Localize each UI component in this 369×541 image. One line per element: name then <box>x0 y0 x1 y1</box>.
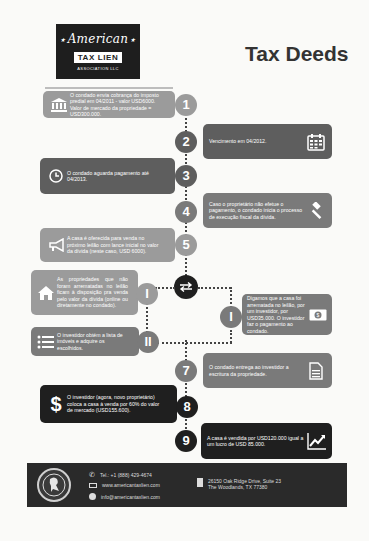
branch-merge-line <box>157 342 232 344</box>
email-row: info@americantaxlien.com <box>89 493 160 500</box>
address-row: 26150 Oak Ridge Drive, Suite 23 The Wood… <box>197 478 281 490</box>
website-link[interactable]: www.americantaxlien.com <box>102 482 160 488</box>
step-9-card: A casa é vendida por USD120.000 igual a … <box>201 423 332 459</box>
dollar-icon: $ <box>45 393 67 415</box>
step-7-text: O condado entrega ao investidor a escrit… <box>209 364 305 377</box>
swap-arrows-icon <box>174 275 198 299</box>
step-1-badge: 1 <box>175 94 197 116</box>
infographic-page: ★American★ TAX LIEN ASSOCIATION LLC Tax … <box>0 0 369 541</box>
document-icon <box>305 360 327 382</box>
eagle-seal-icon <box>37 468 71 502</box>
branch-right-1-badge: I <box>220 306 242 328</box>
step-5-badge: 5 <box>175 234 197 256</box>
branch-line-left <box>155 287 175 289</box>
building-icon <box>197 478 203 487</box>
list-icon <box>35 331 57 353</box>
laptop-icon <box>89 483 97 488</box>
branch-right-1-text: Digamos que a casa foi arrematada no lei… <box>247 295 308 334</box>
step-4-text: Caso o proprietário não efetue o pagamen… <box>209 201 305 221</box>
logo-line3: ASSOCIATION LLC <box>56 66 140 71</box>
logo-divider <box>45 87 173 89</box>
logo-line2: TAX LIEN <box>74 52 123 63</box>
american-tax-lien-logo: ★American★ TAX LIEN ASSOCIATION LLC <box>56 24 140 79</box>
step-1-card: O condado envia cobrança do imposto pred… <box>43 91 175 118</box>
megaphone-icon <box>45 234 67 256</box>
step-7-card: O condado entrega ao investidor a escrit… <box>203 353 332 388</box>
phone-text[interactable]: Tel.: +1 (888) 429-4674 <box>100 472 152 478</box>
step-2-text: Vencimento em 04/2012. <box>209 138 305 145</box>
bank-icon <box>48 94 70 116</box>
branch-left-2-badge: II <box>137 331 159 353</box>
branch-line-right <box>198 287 231 289</box>
logo-line1: American <box>68 32 129 46</box>
step-7-badge: 7 <box>175 360 197 382</box>
step-3-badge: 3 <box>175 165 197 187</box>
branch-left-2-card: O investidor obtém a lista de imóveis e … <box>31 327 139 356</box>
step-8-badge: 8 <box>176 396 198 418</box>
clock-icon <box>45 165 67 187</box>
step-2-card: Vencimento em 04/2012. <box>203 124 332 159</box>
step-9-text: A casa é vendida por USD120.000 igual a … <box>207 435 306 448</box>
step-5-card: A casa é oferecida para venda no próximo… <box>40 228 175 262</box>
step-8-card: $ O investidor (agora, novo proprietário… <box>40 385 177 423</box>
step-4-card: Caso o proprietário não efetue o pagamen… <box>203 193 332 228</box>
step-5-text: A casa é oferecida para venda no próximo… <box>67 235 161 255</box>
page-title: Tax Deeds <box>245 42 349 66</box>
branch-line-right-merge <box>230 330 232 343</box>
branch-left-1-text: As propriedades que não foram arrematada… <box>57 276 128 309</box>
step-3-text: O condado aguarda pagamento até 04/2013. <box>67 170 161 183</box>
step-2-badge: 2 <box>175 131 197 153</box>
branch-right-1-card: Digamos que a casa foi arrematada no lei… <box>242 294 332 335</box>
phone-row: ✆ Tel.: +1 (888) 429-4674 <box>89 471 152 479</box>
step-1-text: O condado envia cobrança do imposto pred… <box>70 92 161 118</box>
svg-text:$: $ <box>317 312 320 318</box>
step-9-badge: 9 <box>175 430 197 452</box>
branch-left-1-card: As propriedades que não foram arrematada… <box>31 270 138 315</box>
branch-left-2-text: O investidor obtém a lista de imóveis e … <box>57 332 129 352</box>
email-link[interactable]: info@americantaxlien.com <box>101 494 160 500</box>
gavel-icon <box>305 200 327 222</box>
calendar-icon <box>305 131 327 153</box>
globe-icon <box>89 493 96 500</box>
website-row: www.americantaxlien.com <box>89 482 160 488</box>
step-8-text: O investidor (agora, novo proprietário) … <box>67 394 163 414</box>
step-4-badge: 4 <box>175 201 197 223</box>
step-3-card: O condado aguarda pagamento até 04/2013. <box>40 158 175 194</box>
money-icon: $ <box>308 304 328 326</box>
contact-footer: ✆ Tel.: +1 (888) 429-4674 www.americanta… <box>27 463 347 507</box>
branch-left-1-badge: I <box>136 283 158 305</box>
phone-icon: ✆ <box>89 471 95 479</box>
chart-up-icon <box>306 430 328 452</box>
address-line2: The Woodlands, TX 77380 <box>208 484 281 490</box>
house-icon <box>35 282 57 304</box>
